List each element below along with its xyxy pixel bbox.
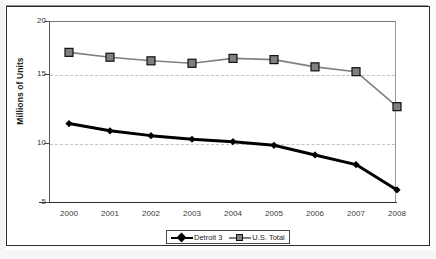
- plot-area: [49, 21, 396, 202]
- x-tick-label-2007: 2007: [336, 209, 376, 218]
- x-tick-label-2004: 2004: [213, 209, 253, 218]
- x-axis-line: [39, 202, 397, 203]
- scan-edge-bottom: [0, 250, 436, 259]
- y-tick-mark-5: [44, 202, 49, 203]
- y-tick-label-5: 5: [20, 197, 46, 206]
- y-tick-mark-20: [44, 21, 49, 22]
- legend-entry-detroit-3: Detroit 3: [171, 233, 222, 242]
- legend-entry-us-total: U.S. Total: [229, 233, 284, 242]
- y-tick-mark-15: [44, 74, 49, 75]
- x-tick-label-2001: 2001: [90, 209, 130, 218]
- chart-page: Millions of Units 20 15 10 5 2000 2001 2…: [0, 0, 436, 259]
- x-tick-label-2006: 2006: [295, 209, 335, 218]
- x-tick-label-2000: 2000: [49, 209, 89, 218]
- gridline-15: [50, 75, 395, 76]
- legend: Detroit 3 U.S. Total: [166, 230, 290, 244]
- scan-edge-left: [0, 0, 5, 259]
- y-tick-label-15: 15: [20, 69, 46, 78]
- legend-label-detroit-3: Detroit 3: [194, 233, 222, 242]
- y-axis-title: Millions of Units: [15, 26, 25, 156]
- x-tick-label-2005: 2005: [254, 209, 294, 218]
- x-tick-label-2003: 2003: [172, 209, 212, 218]
- y-tick-label-20: 20: [20, 16, 46, 25]
- legend-label-us-total: U.S. Total: [252, 233, 284, 242]
- legend-marker-diamond-icon: [171, 233, 193, 242]
- x-tick-label-2008: 2008: [377, 209, 417, 218]
- y-tick-mark-10: [44, 143, 49, 144]
- y-tick-label-10: 10: [20, 138, 46, 147]
- legend-marker-square-icon: [229, 233, 251, 242]
- x-tick-label-2002: 2002: [131, 209, 171, 218]
- gridline-10: [50, 144, 395, 145]
